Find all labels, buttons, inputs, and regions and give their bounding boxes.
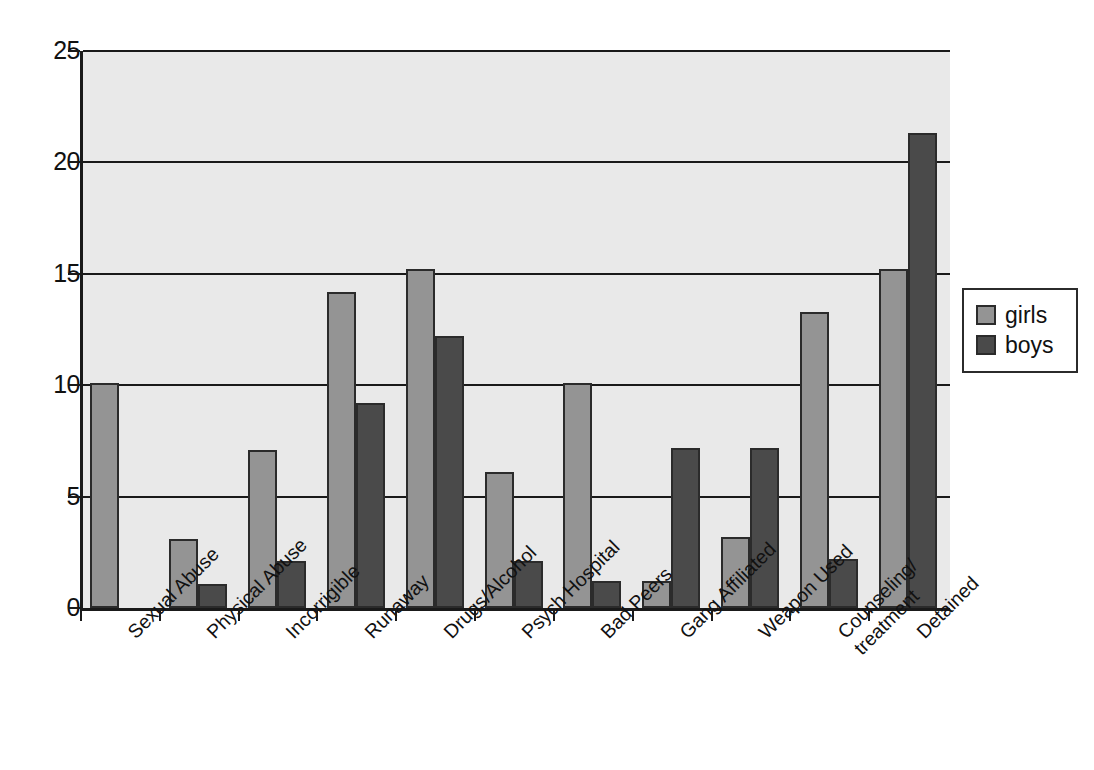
legend: girls boys [962, 288, 1078, 373]
x-tick-1 [159, 608, 161, 621]
plot-area [80, 51, 950, 611]
x-axis-label-line: treatment [849, 643, 865, 659]
legend-swatch-boys [976, 335, 996, 355]
legend-item-girls[interactable]: girls [976, 300, 1066, 330]
bar-boys-4 [435, 336, 464, 608]
bar-girls-0 [90, 383, 119, 608]
x-tick-6 [553, 608, 555, 621]
y-axis: 2520151050 [0, 0, 80, 770]
y-tick-mark-25 [68, 50, 80, 52]
x-tick-0 [80, 608, 82, 621]
x-axis-label-6: Bad Peers [596, 627, 612, 643]
gridline-25 [83, 50, 950, 52]
y-tick-mark-20 [68, 161, 80, 163]
x-axis-label-5: Psych Hospital [517, 627, 533, 643]
x-tick-5 [474, 608, 476, 621]
x-axis-label-10: Detained [912, 627, 928, 643]
x-axis-label-7: Gang Affiliated [675, 627, 691, 643]
x-axis-label-2: Incorrigible [281, 627, 297, 643]
legend-label-girls: girls [1005, 304, 1047, 327]
legend-label-boys: boys [1005, 334, 1054, 357]
gridline-20 [83, 161, 950, 163]
y-tick-mark-5 [68, 496, 80, 498]
x-tick-7 [632, 608, 634, 621]
y-tick-mark-10 [68, 384, 80, 386]
x-axis-label-0: Sexual Abuse [123, 627, 139, 643]
gridline-15 [83, 273, 950, 275]
x-tick-2 [238, 608, 240, 621]
x-axis-label-4: Drugs/Alcohol [439, 627, 455, 643]
x-axis-label-1: Physical Abuse [202, 627, 218, 643]
x-axis-label-9: Counseling/treatment [833, 627, 866, 660]
bar-girls-4 [406, 269, 435, 608]
y-tick-mark-0 [68, 607, 80, 609]
bar-girls-3 [327, 292, 356, 608]
bar-boys-6 [592, 581, 621, 608]
x-tick-10 [868, 608, 870, 621]
legend-item-boys[interactable]: boys [976, 330, 1066, 360]
x-tick-9 [789, 608, 791, 621]
legend-swatch-girls [976, 305, 996, 325]
x-tick-4 [395, 608, 397, 621]
x-tick-8 [711, 608, 713, 621]
bar-boys-7 [671, 448, 700, 608]
x-axis-label-3: Runaway [360, 627, 376, 643]
bar-chart: 2520151050 Sexual AbusePhysical AbuseInc… [0, 0, 1094, 770]
bar-boys-10 [908, 133, 937, 608]
x-tick-3 [316, 608, 318, 621]
bar-boys-8 [750, 448, 779, 608]
x-axis-label-8: Weapon Used [754, 627, 770, 643]
y-tick-mark-15 [68, 273, 80, 275]
